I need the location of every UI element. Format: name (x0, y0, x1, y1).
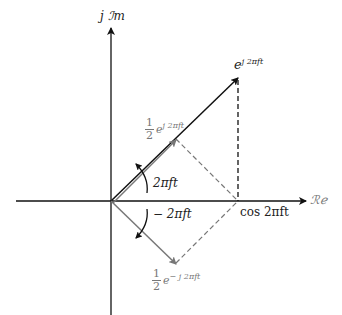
upper-fraction: 1 2 (145, 117, 154, 142)
main-phasor-label: ej 2πft (234, 58, 263, 71)
main-phasor-exponent: j 2πft (242, 57, 264, 66)
lower-exponent: − j 2πft (170, 272, 201, 281)
upper-half-phasor (113, 140, 176, 203)
imag-prefix: j (100, 9, 104, 23)
upper-exponent: j 2πft (163, 121, 185, 130)
main-phasor-base: e (234, 57, 242, 72)
lower-fraction: 1 2 (152, 268, 161, 293)
dashed-parallelogram-upper (176, 139, 238, 201)
imag-symbol: ℐm (108, 9, 125, 23)
angle-negative-label: − 2πft (153, 208, 192, 220)
lower-half-phasor-label: 1 2 e− j 2πft (152, 268, 200, 293)
real-axis-label: ℛℯ (310, 194, 327, 206)
angle-positive-label: 2πft (153, 177, 178, 189)
upper-half-phasor-label: 1 2 ej 2πft (145, 117, 184, 142)
cosine-projection-label: cos 2πft (240, 206, 289, 218)
imaginary-axis-label: j ℐm (100, 10, 125, 22)
